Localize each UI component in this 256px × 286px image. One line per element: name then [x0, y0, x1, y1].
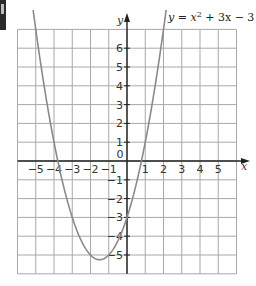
svg-text:4: 4 — [197, 163, 204, 176]
svg-text:3: 3 — [116, 99, 123, 112]
svg-text:2: 2 — [116, 117, 123, 130]
y-axis-label: y — [116, 14, 124, 27]
svg-text:3: 3 — [178, 163, 185, 176]
svg-text:1: 1 — [116, 136, 123, 149]
svg-text:−1: −1 — [107, 174, 123, 187]
svg-text:2: 2 — [160, 163, 167, 176]
svg-text:5: 5 — [116, 61, 123, 74]
svg-text:−2: −2 — [82, 163, 98, 176]
svg-text:0: 0 — [117, 148, 124, 161]
svg-text:6: 6 — [116, 42, 123, 55]
equation-label: y = x2 + 3x − 3 — [167, 10, 254, 24]
svg-text:−2: −2 — [107, 193, 123, 206]
svg-text:1: 1 — [142, 163, 149, 176]
parabola-curve — [32, 2, 167, 259]
svg-text:4: 4 — [116, 80, 123, 93]
svg-text:−3: −3 — [64, 163, 80, 176]
x-axis-label: x — [241, 160, 248, 173]
axes — [18, 13, 251, 274]
svg-text:−5: −5 — [28, 163, 44, 176]
svg-text:5: 5 — [215, 163, 222, 176]
quadratic-graph: −5−4−3−2−1123450−5−4−3−2−1123456 y = x2 … — [0, 0, 256, 286]
svg-text:−3: −3 — [107, 211, 123, 224]
